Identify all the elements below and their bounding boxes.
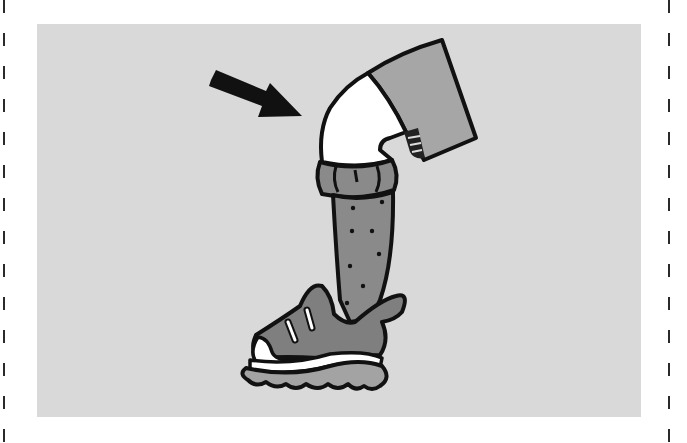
- arrow-icon: [209, 70, 302, 117]
- leg-illustration: [0, 0, 687, 443]
- sneaker-icon: [242, 285, 404, 389]
- sock-cuff-icon: [317, 160, 396, 197]
